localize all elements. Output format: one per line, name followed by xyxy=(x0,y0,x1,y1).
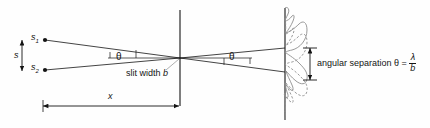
source-label-s1: s1 xyxy=(31,33,39,44)
diffraction-diagram-figure: s1 s2 s θ θ slit width b x angular separ… xyxy=(0,0,430,128)
angular-separation-label: angular separation θ = λb xyxy=(317,54,416,74)
diffraction-curve-solid xyxy=(284,7,307,120)
theta-label-right: θ xyxy=(229,52,235,62)
source-label-s2: s2 xyxy=(31,63,39,74)
distance-x-label: x xyxy=(108,92,113,101)
ray-s1-to-slit xyxy=(45,40,180,58)
source-separation-label: s xyxy=(14,51,19,60)
theta-label-left: θ xyxy=(116,52,122,62)
lambda-over-b-fraction: λb xyxy=(409,53,416,73)
slit-width-label: slit width b xyxy=(126,69,168,78)
